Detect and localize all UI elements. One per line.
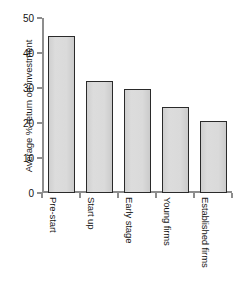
x-axis-category-label: Young firms — [162, 197, 173, 246]
bar — [200, 121, 227, 193]
y-axis-tick-label: 30 — [23, 83, 34, 94]
bar — [162, 107, 189, 193]
plot-area: 01020304050 — [42, 18, 232, 193]
y-axis-tick: 40 — [37, 52, 42, 53]
y-axis-tick: 50 — [37, 17, 42, 18]
bar — [48, 36, 75, 194]
y-axis-tick-label: 0 — [28, 187, 34, 198]
y-axis-tick-label: 40 — [23, 48, 34, 59]
y-axis-tick: 20 — [37, 122, 42, 123]
bar — [124, 89, 151, 193]
y-axis-title: Average % return on investment — [22, 18, 36, 194]
y-axis-tick-label: 50 — [23, 13, 34, 24]
y-axis-tick-label: 20 — [23, 118, 34, 129]
bar — [86, 81, 113, 193]
x-axis-category-labels: Pre-startStart upEarly stageYoung firmsE… — [42, 197, 241, 301]
y-axis-line — [42, 18, 44, 193]
x-axis-category-label: Established firms — [200, 197, 211, 268]
bar-chart: Average % return on investment 010203040… — [0, 0, 241, 301]
y-axis-tick: 30 — [37, 87, 42, 88]
y-axis-tick-label: 10 — [23, 153, 34, 164]
x-axis-category-label: Early stage — [124, 197, 135, 243]
x-axis-category-label: Pre-start — [48, 197, 59, 233]
x-axis-category-label: Start up — [86, 197, 97, 229]
y-axis-tick: 10 — [37, 157, 42, 158]
